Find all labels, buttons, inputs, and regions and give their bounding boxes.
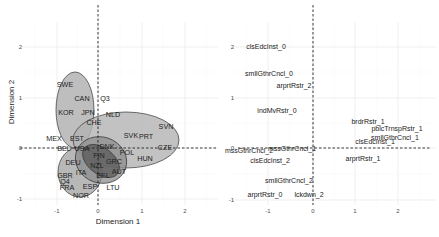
label-che: CHE: [86, 118, 101, 127]
label-prt: PRT: [139, 132, 154, 141]
label-smllGthrCncl-2: smllGthrCncl_2: [265, 177, 313, 185]
label-svk: SVK: [124, 131, 139, 140]
right-variable-labels: clsEdcInst_0 smllGthrCncl_0 arprtRstr_2 …: [225, 43, 423, 199]
label-grc: GRC: [106, 157, 122, 166]
label-ltu: LTU: [106, 183, 119, 192]
label-pblcTrnspRstr-1: pblcTrnspRstr_1: [371, 125, 422, 133]
label-smllGthrCncl-0: smllGthrCncl_0: [245, 70, 293, 78]
label-pol: POL: [120, 148, 134, 157]
label-clsEdcInst-0: clsEdcInst_0: [246, 43, 286, 51]
label-arprtRstr-2: arprtRstr_2: [276, 82, 311, 90]
left-x-ticks: -1 0 1 2: [54, 208, 187, 214]
right-xtick-0: 0: [311, 208, 315, 214]
right-panel: clsEdcInst_0 smllGthrCncl_0 arprtRstr_2 …: [225, 5, 436, 214]
label-lckdwn-2: lckdwn_2: [294, 191, 323, 199]
y-axis-title: Dimension 2: [7, 79, 16, 124]
x-axis-title: Dimension 1: [96, 217, 141, 226]
label-hun: HUN: [137, 154, 153, 163]
left-panel: SWE CAN Q3 KOR JPN NLD CHE SVN SVK PRT M…: [7, 5, 218, 226]
right-x-ticks: -1 0 1 2: [265, 208, 400, 214]
right-y-ticks: 2 1 0 -1: [229, 44, 235, 203]
label-usa: USA: [75, 144, 90, 153]
label-ita: ITA: [76, 168, 87, 177]
label-svn: SVN: [159, 122, 174, 131]
label-arprtRstr-1: arprtRstr_1: [345, 155, 380, 163]
label-jpn: JPN: [81, 108, 95, 117]
right-xtick-minus-1: -1: [265, 208, 271, 214]
right-ytick-minus-1: -1: [229, 197, 235, 203]
xtick-minus-1: -1: [54, 208, 60, 214]
label-mex: MEX: [46, 134, 62, 143]
label-bel: BEL: [57, 144, 71, 153]
label-deu: DEU: [65, 158, 80, 167]
right-xtick-2: 2: [396, 208, 400, 214]
label-clsEdcInst-1: clsEdcInst_1: [355, 138, 395, 146]
label-clsEdcInst-2: clsEdcInst_2: [250, 157, 290, 165]
xtick-2: 2: [183, 208, 187, 214]
label-arprtRstr-0: arprtRstr_0: [247, 191, 282, 199]
xtick-1: 1: [140, 208, 144, 214]
label-nzl: NZL: [90, 161, 104, 170]
label-cze: CZE: [158, 143, 173, 152]
label-kor: KOR: [58, 108, 74, 117]
label-dnk: DNK: [99, 142, 114, 151]
label-aut: AUT: [112, 167, 127, 176]
label-q3: Q3: [100, 94, 110, 103]
label-can: CAN: [74, 94, 89, 103]
label-bel-2: BEL: [96, 171, 110, 180]
right-xtick-1: 1: [353, 208, 357, 214]
label-fin: FIN: [93, 151, 105, 160]
label-nld: NLD: [106, 110, 120, 119]
label-nor: NOR: [73, 191, 89, 200]
xtick-0: 0: [96, 208, 100, 214]
chart-canvas: SWE CAN Q3 KOR JPN NLD CHE SVN SVK PRT M…: [0, 0, 439, 237]
ytick-minus-1: -1: [17, 196, 23, 202]
label-mssGthrCncl-1: mssGthrCncl_1: [268, 145, 316, 153]
label-esp: ESP: [83, 182, 98, 191]
label-swe: SWE: [57, 80, 74, 89]
label-est: EST: [70, 134, 85, 143]
label-indMvRstr-0: indMvRstr_0: [257, 107, 296, 115]
